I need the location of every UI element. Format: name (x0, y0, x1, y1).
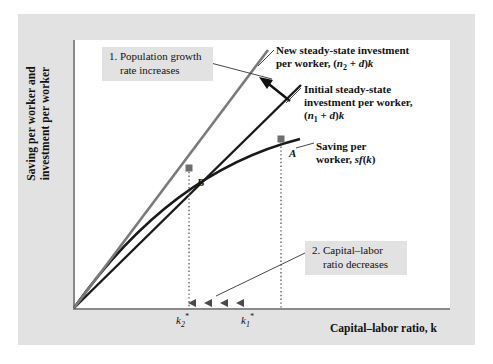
point-A-label: A (289, 147, 296, 159)
callout-2-line1: 2. Capital–labor (312, 244, 383, 256)
solow-model-figure: Saving per worker and investment per wor… (0, 0, 493, 364)
motion-arrow-3 (220, 299, 228, 307)
tick-k2-sub: 2 (181, 320, 185, 329)
note-saving-paren-close: ) (372, 153, 376, 165)
note-init-line2: investment per worker, (304, 96, 412, 108)
note-saving-leader (296, 143, 314, 148)
note-init-var-k: k (339, 109, 345, 121)
initial-investment-line (74, 85, 301, 308)
point-B-label: B (197, 176, 204, 188)
note-saving: Saving per worker, sf(k) (316, 140, 436, 166)
tick-k1-sub: 1 (246, 320, 250, 329)
callout-2-line2: ratio decreases (323, 258, 388, 272)
tick-k1-sup: * (250, 312, 254, 321)
tick-k2-sup: * (185, 312, 189, 321)
note-new-investment: New steady-state investment per worker, … (276, 44, 448, 75)
note-initial-investment: Initial steady-state investment per work… (304, 83, 454, 127)
x-tick-k1-star: k1* (241, 312, 254, 329)
new-investment-line (74, 50, 268, 308)
note-saving-sf: sf (355, 153, 363, 165)
callout-1-line1: 1. Population growth (109, 50, 202, 62)
note-new-var-k: k (368, 57, 374, 69)
note-saving-line1: Saving per (316, 140, 366, 152)
note-new-line1: New steady-state investment (276, 44, 409, 56)
note-new-line2-pre: per worker, ( (276, 57, 337, 69)
callout-population-growth: 1. Population growth rate increases (102, 47, 213, 81)
callout-capital-labor-decrease: 2. Capital–labor ratio decreases (305, 241, 407, 275)
point-B-marker (186, 165, 193, 172)
x-tick-k2-star: k2* (176, 312, 189, 329)
point-A-marker (278, 136, 285, 143)
note-init-plus: + (318, 109, 330, 121)
note-saving-line2-pre: worker, (316, 153, 355, 165)
callout-2-leader (216, 253, 305, 296)
callout-1-line2: rate increases (120, 64, 180, 78)
motion-arrow-2 (204, 299, 212, 307)
saving-per-worker-curve (74, 139, 300, 308)
note-init-leader (286, 88, 301, 103)
motion-arrow-4 (236, 299, 244, 307)
callout-1-leader (207, 62, 272, 79)
note-new-plus: + (347, 57, 359, 69)
note-init-line1: Initial steady-state (304, 83, 391, 95)
